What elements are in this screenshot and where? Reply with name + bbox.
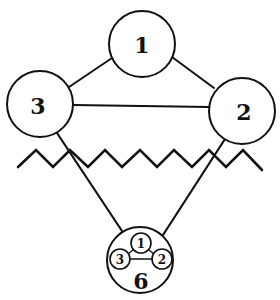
node-2: 2 xyxy=(209,78,275,144)
node-6-label: 6 xyxy=(133,268,148,294)
inner-node-1: 1 xyxy=(131,233,151,253)
edge-1-2 xyxy=(172,57,214,88)
node-6: 1 3 2 6 xyxy=(107,227,173,294)
node-1-label: 1 xyxy=(134,32,149,58)
inner-node-3-label: 3 xyxy=(116,253,124,267)
zigzag-line xyxy=(18,150,262,170)
connector-3-6 xyxy=(57,133,124,234)
edge-1-3 xyxy=(69,58,112,87)
node-3-label: 3 xyxy=(30,93,45,119)
inner-node-1-label: 1 xyxy=(137,237,145,251)
node-1: 1 xyxy=(109,11,175,77)
node-3: 3 xyxy=(7,71,73,137)
inner-node-2: 2 xyxy=(152,249,172,269)
edge-3-2 xyxy=(73,105,209,107)
node-2-label: 2 xyxy=(236,99,251,125)
inner-node-2-label: 2 xyxy=(158,253,166,267)
graph-diagram: 1 3 2 1 3 2 6 xyxy=(0,0,280,300)
inner-node-3: 3 xyxy=(110,249,130,269)
